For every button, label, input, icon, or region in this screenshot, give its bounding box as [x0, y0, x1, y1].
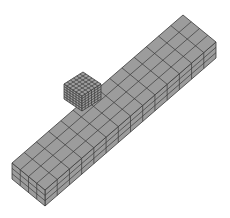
beam-mesh	[12, 15, 216, 206]
fe-mesh-figure	[0, 0, 230, 218]
